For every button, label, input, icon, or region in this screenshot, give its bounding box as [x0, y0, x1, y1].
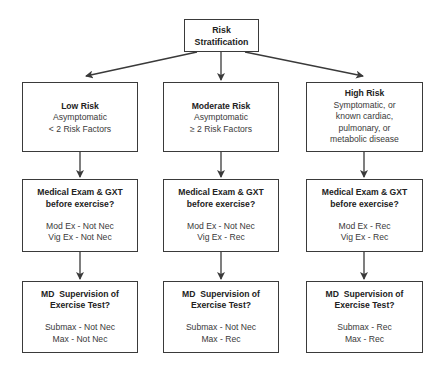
- moderate-risk-medical-exam-node: Medical Exam & GXT before exercise? Mod …: [163, 179, 279, 252]
- exam-title-line2: before exercise?: [187, 199, 255, 211]
- supervision-max: Max - Not Nec: [53, 334, 108, 346]
- exam-title-line2: before exercise?: [46, 199, 114, 211]
- risk-stratification-node: Risk Stratification: [184, 19, 259, 52]
- high-risk-line: pulmonary, or: [339, 123, 391, 135]
- high-risk-title: High Risk: [345, 88, 385, 100]
- high-risk-node: High Risk Symptomatic, or known cardiac,…: [306, 82, 423, 152]
- supervision-title-line1: MD Supervision of: [326, 289, 404, 301]
- moderate-risk-line: ≥ 2 Risk Factors: [190, 124, 252, 136]
- low-risk-md-supervision-node: MD Supervision of Exercise Test? Submax …: [22, 281, 138, 353]
- high-risk-md-supervision-node: MD Supervision of Exercise Test? Submax …: [306, 281, 423, 353]
- exam-vigorous-exercise: Vig Ex - Rec: [197, 232, 245, 244]
- low-risk-medical-exam-node: Medical Exam & GXT before exercise? Mod …: [22, 179, 138, 252]
- moderate-risk-title: Moderate Risk: [192, 101, 251, 113]
- supervision-submax: Submax - Rec: [337, 322, 391, 334]
- root-title-line1: Risk: [212, 24, 231, 36]
- exam-moderate-exercise: Mod Ex - Not Nec: [187, 221, 255, 233]
- supervision-title-line2: Exercise Test?: [191, 300, 251, 312]
- low-risk-title: Low Risk: [61, 101, 99, 113]
- supervision-submax: Submax - Not Nec: [45, 322, 115, 334]
- root-title-line2: Stratification: [195, 36, 249, 48]
- supervision-title-line2: Exercise Test?: [50, 300, 110, 312]
- exam-title-line1: Medical Exam & GXT: [37, 187, 123, 199]
- exam-moderate-exercise: Mod Ex - Not Nec: [46, 221, 114, 233]
- exam-vigorous-exercise: Vig Ex - Not Nec: [48, 232, 111, 244]
- exam-vigorous-exercise: Vig Ex - Rec: [341, 232, 389, 244]
- low-risk-node: Low Risk Asymptomatic < 2 Risk Factors: [22, 82, 138, 152]
- moderate-risk-node: Moderate Risk Asymptomatic ≥ 2 Risk Fact…: [163, 82, 279, 152]
- supervision-title-line2: Exercise Test?: [334, 300, 394, 312]
- high-risk-line: metabolic disease: [330, 134, 399, 146]
- moderate-risk-md-supervision-node: MD Supervision of Exercise Test? Submax …: [163, 281, 279, 353]
- moderate-risk-line: Asymptomatic: [194, 112, 248, 124]
- arrow-root-to-high: [245, 52, 363, 76]
- exam-title-line1: Medical Exam & GXT: [322, 187, 408, 199]
- low-risk-line: < 2 Risk Factors: [49, 124, 111, 136]
- exam-moderate-exercise: Mod Ex - Rec: [338, 221, 390, 233]
- high-risk-line: known cardiac,: [336, 111, 393, 123]
- arrow-root-to-low: [86, 52, 197, 76]
- supervision-title-line1: MD Supervision of: [182, 289, 260, 301]
- low-risk-line: Asymptomatic: [53, 112, 107, 124]
- supervision-max: Max - Rec: [345, 334, 384, 346]
- high-risk-line: Symptomatic, or: [333, 100, 395, 112]
- exam-title-line1: Medical Exam & GXT: [178, 187, 264, 199]
- high-risk-medical-exam-node: Medical Exam & GXT before exercise? Mod …: [306, 179, 423, 252]
- supervision-title-line1: MD Supervision of: [41, 289, 119, 301]
- supervision-max: Max - Rec: [201, 334, 240, 346]
- supervision-submax: Submax - Not Nec: [186, 322, 256, 334]
- exam-title-line2: before exercise?: [330, 199, 398, 211]
